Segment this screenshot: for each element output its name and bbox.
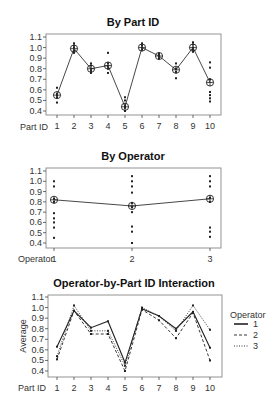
observation-dot xyxy=(73,42,75,44)
panel-title: By Part ID xyxy=(107,16,160,28)
observation-dot xyxy=(53,221,55,223)
y-tick-label: 0.6 xyxy=(29,217,42,227)
series-point xyxy=(175,328,177,330)
observation-dot xyxy=(56,87,58,89)
legend-entry-label: 3 xyxy=(253,341,258,351)
observation-dot xyxy=(131,226,133,228)
y-tick-label: 1.0 xyxy=(31,303,44,313)
observation-dot xyxy=(53,180,55,182)
y-tick-label: 0.8 xyxy=(31,324,44,334)
series-point xyxy=(90,333,92,335)
series-point xyxy=(158,319,160,321)
y-tick-label: 0.5 xyxy=(29,228,42,238)
data-layer xyxy=(50,175,213,244)
x-tick-label: 7 xyxy=(156,383,161,393)
x-tick-label: 3 xyxy=(88,383,93,393)
y-tick-label: 0.6 xyxy=(31,345,44,355)
observation-dot xyxy=(209,185,211,187)
y-tick-label: 1.1 xyxy=(29,166,42,176)
y-axis-label: Average xyxy=(18,319,28,352)
series-point xyxy=(192,304,194,306)
series-point xyxy=(209,329,211,331)
data-layer xyxy=(53,41,213,112)
series-point xyxy=(209,359,211,361)
series-point xyxy=(107,320,109,322)
y-tick-label: 0.8 xyxy=(29,64,42,74)
x-tick-label: 3 xyxy=(88,121,93,131)
x-tick-label: 9 xyxy=(190,383,195,393)
series-line-operator-2 xyxy=(57,310,210,371)
observation-dot xyxy=(209,100,211,102)
y-tick-label: 0.9 xyxy=(29,187,42,197)
series-point xyxy=(192,312,194,314)
series-point xyxy=(56,346,58,348)
series-point xyxy=(124,365,126,367)
x-tick-label: 1 xyxy=(54,121,59,131)
plot-frame xyxy=(46,168,221,248)
observation-dot xyxy=(192,41,194,43)
y-axis: 0.40.50.60.70.80.91.01.1 xyxy=(29,32,46,116)
y-axis: 0.40.50.60.70.80.91.01.1 xyxy=(31,292,48,376)
legend-entry-label: 2 xyxy=(253,330,258,340)
y-tick-label: 0.6 xyxy=(29,85,42,95)
series-point xyxy=(175,330,177,332)
observation-dot xyxy=(53,237,55,239)
observation-dot xyxy=(107,72,109,74)
observation-dot xyxy=(131,175,133,177)
observation-dot xyxy=(209,61,211,63)
panel-by-part-id: By Part ID 0.40.50.60.70.80.91.01.1 1234… xyxy=(20,16,221,132)
observation-dot xyxy=(131,231,133,233)
series-line-operator-1 xyxy=(57,309,210,363)
series-point xyxy=(141,307,143,309)
observation-dot xyxy=(209,91,211,93)
series-point xyxy=(56,358,58,360)
observation-dot xyxy=(175,62,177,64)
legend: Operator 123 xyxy=(230,310,266,351)
series-point xyxy=(124,370,126,372)
observation-dot xyxy=(209,97,211,99)
panel-by-operator: By Operator 0.40.50.60.70.80.91.01.1 123… xyxy=(18,150,221,264)
x-axis-label: Part ID xyxy=(18,383,47,393)
series-point xyxy=(209,347,211,349)
y-tick-label: 0.9 xyxy=(29,53,42,63)
observation-dot xyxy=(209,236,211,238)
y-axis: 0.40.50.60.70.80.91.01.1 xyxy=(29,166,46,248)
y-tick-label: 0.4 xyxy=(29,238,42,248)
x-tick-label: 4 xyxy=(105,121,110,131)
y-tick-label: 0.4 xyxy=(31,366,44,376)
observation-dot xyxy=(131,242,133,244)
observation-dot xyxy=(124,99,126,101)
y-tick-label: 0.4 xyxy=(29,106,42,116)
observation-dot xyxy=(53,185,55,187)
series-point xyxy=(56,355,58,357)
panel-title: By Operator xyxy=(101,150,165,162)
chart-canvas: By Part ID 0.40.50.60.70.80.91.01.1 1234… xyxy=(0,0,271,410)
y-tick-label: 1.1 xyxy=(31,292,44,302)
observation-dot xyxy=(53,227,55,229)
legend-title: Operator xyxy=(230,310,266,320)
observation-dot xyxy=(53,217,55,219)
x-axis-label: Operator xyxy=(18,254,54,264)
observation-dot xyxy=(90,62,92,64)
panel-interaction: Operator-by-Part ID Interaction 0.40.50.… xyxy=(18,277,266,393)
y-tick-label: 0.5 xyxy=(29,95,42,105)
observation-dot xyxy=(131,185,133,187)
y-tick-label: 1.0 xyxy=(29,43,42,53)
observation-dot xyxy=(131,192,133,194)
x-tick-label: 2 xyxy=(71,121,76,131)
x-axis: 123 xyxy=(51,248,212,264)
x-tick-label: 8 xyxy=(173,383,178,393)
y-tick-label: 0.7 xyxy=(29,207,42,217)
x-axis-label: Part ID xyxy=(20,122,49,132)
x-tick-label: 3 xyxy=(207,254,212,264)
observation-dot xyxy=(53,212,55,214)
x-tick-label: 2 xyxy=(129,254,134,264)
observation-dot xyxy=(131,211,133,213)
series-point xyxy=(158,315,160,317)
x-tick-label: 10 xyxy=(205,121,215,131)
data-layer xyxy=(56,304,211,372)
x-tick-label: 2 xyxy=(71,383,76,393)
series-point xyxy=(73,304,75,306)
y-tick-label: 0.9 xyxy=(31,313,44,323)
observation-dot xyxy=(124,96,126,98)
